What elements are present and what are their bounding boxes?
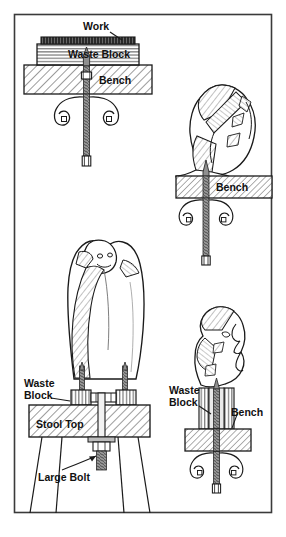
label-waste-block-bottom-right-line2: Block bbox=[169, 396, 198, 408]
label-waste-block-center-line2: Block bbox=[24, 389, 53, 401]
label-large-bolt: Large Bolt bbox=[38, 471, 90, 483]
work-piece-top-left bbox=[41, 37, 135, 44]
label-stool-top: Stool Top bbox=[36, 418, 84, 430]
label-work: Work bbox=[83, 20, 109, 32]
label-waste-block-top-left: Waste Block bbox=[68, 48, 130, 60]
label-bench-top-left: Bench bbox=[99, 74, 131, 86]
label-bench-top-right: Bench bbox=[216, 181, 248, 193]
carving-mount-illustration: Work Waste Block Bench Bench Waste Block… bbox=[0, 0, 286, 537]
bench-slab-bottom-right bbox=[185, 429, 251, 451]
label-bench-bottom-right: Bench bbox=[231, 406, 263, 418]
figure-root: Work Waste Block Bench Bench Waste Block… bbox=[0, 0, 286, 537]
label-waste-block-bottom-right-line1: Waste bbox=[169, 384, 200, 396]
stone-head-carving bbox=[195, 307, 245, 387]
label-waste-block-center-line1: Waste bbox=[24, 377, 55, 389]
carved-figure-tall bbox=[68, 240, 144, 379]
bolt-assembly-top-right bbox=[202, 160, 210, 265]
